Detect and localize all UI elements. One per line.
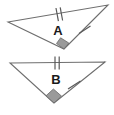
triangle-a-right-edge-single-tick — [79, 26, 91, 34]
triangle-b-group: B — [10, 57, 105, 104]
geometry-figure: A B — [0, 0, 114, 115]
triangle-a-top-edge-double-tick — [56, 7, 63, 21]
triangle-b-label: B — [51, 72, 60, 87]
geometry-canvas: A B — [0, 0, 114, 115]
triangle-b-right-edge-single-tick — [68, 81, 81, 89]
triangle-a-label: A — [53, 23, 63, 38]
triangle-a-group: A — [8, 5, 108, 49]
triangle-b-right-angle-marker — [46, 89, 61, 103]
triangle-a-right-angle-marker — [57, 38, 69, 49]
